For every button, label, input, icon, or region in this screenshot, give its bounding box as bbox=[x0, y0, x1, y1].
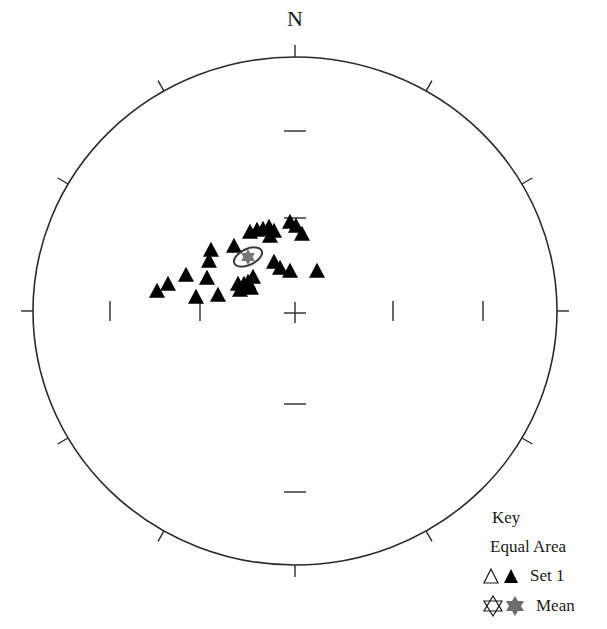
inner-ticks bbox=[110, 131, 483, 492]
projection-label: Equal Area bbox=[490, 537, 566, 557]
triangle-marker bbox=[188, 289, 204, 304]
triangle-marker bbox=[226, 238, 242, 253]
north-label: N bbox=[287, 8, 303, 30]
star-icon bbox=[482, 595, 528, 617]
stereonet-plot bbox=[0, 0, 607, 629]
triangle-marker bbox=[199, 270, 215, 285]
triangle-marker bbox=[309, 263, 325, 278]
legend-entry-set-1: Set 1 bbox=[482, 566, 564, 586]
triangle-icon bbox=[482, 567, 522, 585]
triangle-marker bbox=[203, 242, 219, 257]
triangle-marker bbox=[210, 287, 226, 302]
set-1-points bbox=[149, 214, 325, 304]
outer-tick bbox=[426, 81, 432, 91]
legend-set-label: Set 1 bbox=[530, 566, 564, 586]
legend-mean-label: Mean bbox=[536, 596, 575, 616]
legend-entry-mean: Mean bbox=[482, 595, 575, 617]
outer-tick bbox=[158, 531, 164, 541]
outer-tick bbox=[58, 438, 68, 444]
outer-tick bbox=[522, 438, 532, 444]
outer-tick bbox=[426, 531, 432, 541]
legend-title: Key bbox=[492, 508, 520, 528]
outer-tick bbox=[58, 178, 68, 184]
outer-tick bbox=[158, 81, 164, 91]
triangle-marker bbox=[160, 276, 176, 291]
outer-tick bbox=[522, 178, 532, 184]
triangle-marker bbox=[178, 267, 194, 282]
